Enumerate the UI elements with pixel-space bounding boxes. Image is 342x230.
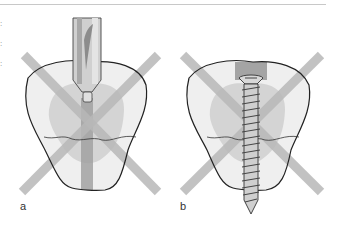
panel-b: b <box>171 0 342 230</box>
panel-label-a: a <box>20 200 26 212</box>
panel-label-b: b <box>180 200 186 212</box>
drill-tooth-illustration <box>0 0 171 230</box>
screw-tooth-illustration <box>171 0 342 230</box>
panel-a: a <box>0 0 171 230</box>
